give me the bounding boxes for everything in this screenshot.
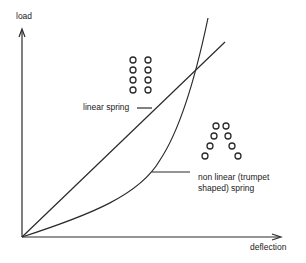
nonlinear-spring-label-line1: non linear (trumpet: [198, 172, 269, 183]
parallel-coil-icon: [130, 57, 151, 93]
nonlinear-spring-label-line2: shaped) spring: [198, 183, 254, 194]
spring-load-deflection-diagram: load deflection linear spring non linear…: [0, 0, 306, 263]
nonlinear-spring-curve: [22, 18, 208, 237]
diagram-canvas: [0, 0, 306, 263]
trumpet-coil-icon: [202, 123, 241, 159]
linear-spring-label: linear spring: [83, 102, 129, 113]
y-axis-label: load: [16, 11, 32, 22]
linear-spring-line: [22, 42, 225, 237]
x-axis-label: deflection: [250, 242, 286, 253]
